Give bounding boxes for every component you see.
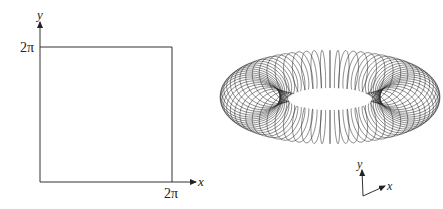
y-axis-label: y: [35, 7, 43, 22]
figure-canvas: y x 2π 2π y x: [0, 0, 443, 209]
torus-axes: y x: [356, 157, 393, 196]
torus-y-axis: [362, 170, 363, 196]
y-tick-label: 2π: [20, 40, 34, 55]
torus-hole: [288, 88, 372, 110]
torus-x-label: x: [386, 179, 393, 193]
torus-x-axis: [363, 186, 385, 196]
torus-y-label: y: [356, 157, 363, 171]
x-tick-label: 2π: [164, 186, 178, 201]
torus-diagram: [220, 50, 440, 144]
square-domain-diagram: y x 2π 2π: [20, 7, 204, 201]
x-axis-label: x: [197, 174, 204, 189]
